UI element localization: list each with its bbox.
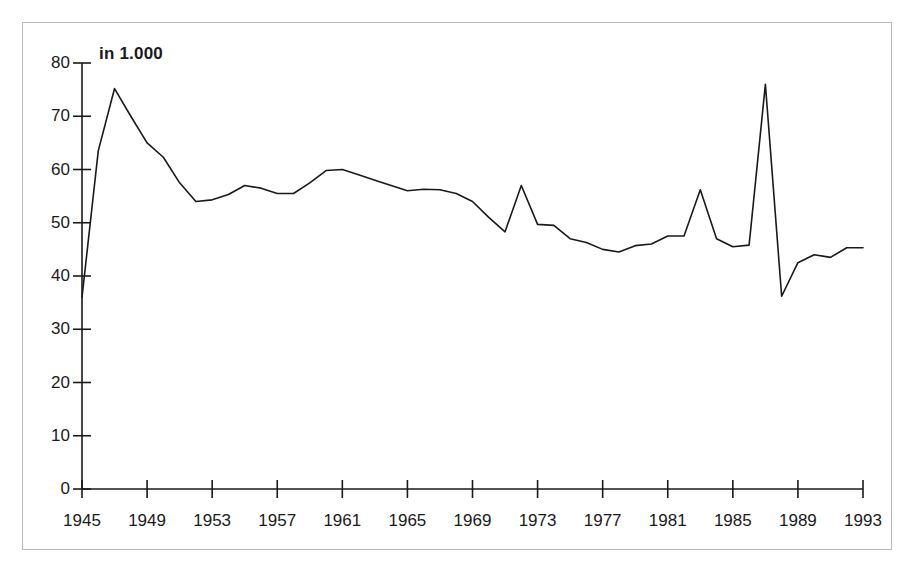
x-tick-label: 1957 <box>242 511 312 531</box>
y-tick-label: 60 <box>26 160 70 180</box>
x-tick-label: 1949 <box>112 511 182 531</box>
y-tick-label: 50 <box>26 213 70 233</box>
y-tick-label: 80 <box>26 53 70 73</box>
axis-lines <box>82 63 863 489</box>
y-tick-label: 30 <box>26 319 70 339</box>
y-tick-label: 10 <box>26 426 70 446</box>
x-tick-label: 1985 <box>698 511 768 531</box>
x-tick-label: 1993 <box>828 511 898 531</box>
y-tick-label: 0 <box>26 479 70 499</box>
x-tick-label: 1953 <box>177 511 247 531</box>
x-tick-label: 1981 <box>633 511 703 531</box>
x-tick-label: 1977 <box>568 511 638 531</box>
x-tick-label: 1961 <box>307 511 377 531</box>
chart-page: in 1.000 01020304050607080 1945194919531… <box>0 0 914 573</box>
unit-note-label: in 1.000 <box>99 44 163 64</box>
y-tick-label: 70 <box>26 106 70 126</box>
line-chart <box>0 0 914 573</box>
y-tick-label: 40 <box>26 266 70 286</box>
data-series-line <box>82 84 863 297</box>
x-tick-label: 1965 <box>372 511 442 531</box>
x-tick-label: 1945 <box>47 511 117 531</box>
x-tick-label: 1969 <box>438 511 508 531</box>
x-tick-label: 1989 <box>763 511 833 531</box>
y-tick-label: 20 <box>26 373 70 393</box>
x-tick-label: 1973 <box>503 511 573 531</box>
